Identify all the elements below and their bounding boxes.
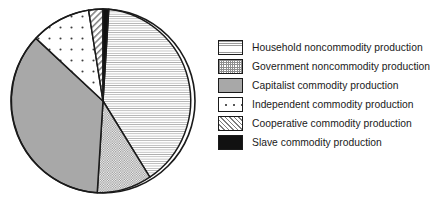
legend-label-government: Government noncommodity production xyxy=(252,61,430,73)
legend-label-household: Household noncommodity production xyxy=(252,42,423,54)
legend-swatch-cooperative-icon xyxy=(218,116,243,131)
legend-item-slave[interactable]: Slave commodity production xyxy=(216,133,428,152)
pie-chart-svg xyxy=(0,0,215,201)
legend-swatch-government-icon xyxy=(218,59,243,74)
legend-item-household[interactable]: Household noncommodity production xyxy=(216,38,428,57)
legend-label-cooperative: Cooperative commodity production xyxy=(252,118,412,130)
legend-label-slave: Slave commodity production xyxy=(252,137,382,149)
legend-label-capitalist: Capitalist commodity production xyxy=(252,80,399,92)
legend-swatch-slave-icon xyxy=(218,135,243,150)
legend-swatch-household-icon xyxy=(218,40,243,55)
legend-item-capitalist[interactable]: Capitalist commodity production xyxy=(216,76,428,95)
chart-legend: Household noncommodity production Govern… xyxy=(216,38,428,152)
pie-chart-plot-area xyxy=(0,0,215,201)
legend-label-independent: Independent commodity production xyxy=(252,99,414,111)
legend-item-cooperative[interactable]: Cooperative commodity production xyxy=(216,114,428,133)
legend-swatch-capitalist-icon xyxy=(218,78,243,93)
legend-item-government[interactable]: Government noncommodity production xyxy=(216,57,428,76)
legend-swatch-independent-icon xyxy=(218,97,243,112)
legend-item-independent[interactable]: Independent commodity production xyxy=(216,95,428,114)
